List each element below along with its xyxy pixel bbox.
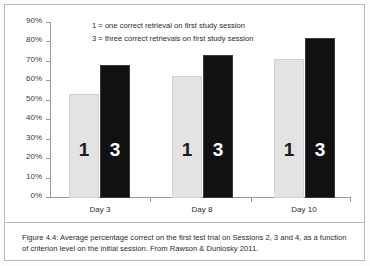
y-tick-70: 70% [0,61,50,62]
y-tick-mark-70 [46,61,50,62]
bar-day8-series1[interactable]: 1 [172,76,202,198]
y-tick-label-10: 10% [26,172,42,181]
y-tick-mark-20 [46,158,50,159]
y-tick-label-30: 30% [26,133,42,142]
y-tick-90: 90% [0,22,50,23]
x-axis-separator-3 [350,197,351,202]
x-axis-separator-1 [150,197,151,202]
y-axis-line [50,22,51,198]
bar-label-day10-series2: 3 [306,140,334,159]
bar-day3-series2[interactable]: 3 [100,65,130,198]
y-tick-mark-30 [46,139,50,140]
x-axis-label-day8: Day 8 [172,205,232,214]
legend-item-one-retrieval: 1 = one correct retrieval on first study… [92,19,253,32]
legend-item-three-retrievals: 3 = three correct retrievals on first st… [92,32,253,45]
y-tick-50: 50% [0,100,50,101]
y-tick-80: 80% [0,41,50,42]
y-tick-0: 0% [0,197,50,198]
y-tick-mark-90 [46,22,50,23]
x-axis-separator-2 [251,197,252,202]
y-tick-label-50: 50% [26,94,42,103]
y-tick-mark-50 [46,100,50,101]
y-tick-mark-10 [46,178,50,179]
y-tick-10: 10% [0,178,50,179]
y-tick-label-90: 90% [26,16,42,25]
y-tick-label-0: 0% [30,191,42,200]
x-axis-label-day10: Day 10 [274,205,334,214]
chart-plot-area: 90% 80% 70% 60% 50% 40% 30% 20% [0,0,370,222]
y-tick-mark-80 [46,41,50,42]
bar-label-day3-series1: 1 [70,140,98,159]
y-tick-label-40: 40% [26,113,42,122]
bar-label-day10-series1: 1 [275,140,303,159]
y-tick-40: 40% [0,119,50,120]
bar-day3-series1[interactable]: 1 [69,94,99,198]
y-tick-30: 30% [0,139,50,140]
bar-label-day8-series1: 1 [173,140,201,159]
y-tick-mark-60 [46,80,50,81]
bar-day10-series2[interactable]: 3 [305,38,335,198]
y-tick-label-60: 60% [26,74,42,83]
y-tick-mark-0 [46,197,50,198]
y-tick-20: 20% [0,158,50,159]
bar-label-day8-series2: 3 [204,140,232,159]
y-tick-60: 60% [0,80,50,81]
y-tick-label-80: 80% [26,35,42,44]
bar-day10-series1[interactable]: 1 [274,59,304,198]
chart-legend: 1 = one correct retrieval on first study… [92,19,253,45]
y-tick-label-20: 20% [26,152,42,161]
bar-label-day3-series2: 3 [101,140,129,159]
bar-day8-series2[interactable]: 3 [203,55,233,198]
y-tick-label-70: 70% [26,55,42,64]
x-axis-label-day3: Day 3 [70,205,130,214]
figure-container: 90% 80% 70% 60% 50% 40% 30% 20% [0,0,370,266]
caption-divider [5,222,364,223]
figure-caption: Figure 4.4: Average percentage correct o… [22,233,348,254]
y-tick-mark-40 [46,119,50,120]
